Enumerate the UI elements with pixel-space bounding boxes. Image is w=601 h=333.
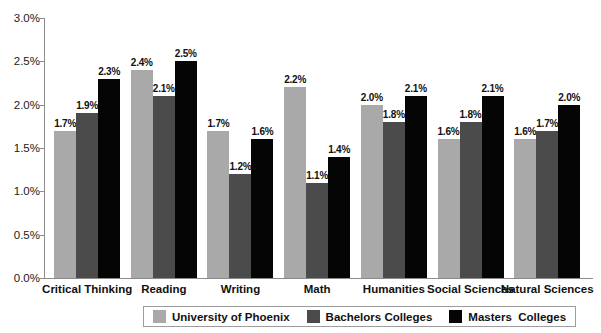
y-axis-tick-label: 0.5% [0,229,40,241]
chart-title [62,0,522,2]
bar-value-label: 1.9% [76,100,98,111]
bar: 2.4% [131,70,153,278]
bar-group: 1.6%1.8%2.1% [438,18,504,278]
bar-value-label: 2.1% [153,83,175,94]
legend-item[interactable]: Masters Colleges [449,310,566,323]
bar: 2.1% [153,96,175,278]
bar: 1.4% [328,157,350,278]
bar: 2.1% [405,96,427,278]
bar: 1.6% [251,139,273,278]
category-label: Math [304,283,331,295]
bar: 1.7% [536,131,558,278]
bar-value-label: 2.5% [175,48,197,59]
y-axis-tick [39,61,44,62]
bar-value-label: 2.1% [482,83,504,94]
bar: 2.5% [175,61,197,278]
bar-value-label: 1.7% [54,118,76,129]
bar: 2.2% [284,87,306,278]
y-axis-tick-label: 0.0% [0,272,40,284]
category-label: Writing [221,283,260,295]
bar-value-label: 1.6% [438,126,460,137]
y-axis-tick-label: 2.0% [0,99,40,111]
category-label: Natural Sciences [501,283,594,295]
category-label: Critical Thinking [42,283,132,295]
legend-swatch [153,310,166,323]
bar-value-label: 2.0% [361,92,383,103]
bar: 1.2% [229,174,251,278]
category-label: Humanities [363,283,425,295]
bar-value-label: 1.7% [207,118,229,129]
bar: 1.8% [460,122,482,278]
legend-swatch [449,310,462,323]
bar-value-label: 2.3% [98,66,120,77]
plot-area: 1.7%1.9%2.3%2.4%2.1%2.5%1.7%1.2%1.6%2.2%… [44,18,593,278]
bar: 2.0% [361,105,383,278]
bar-value-label: 1.8% [460,109,482,120]
bar-value-label: 1.7% [536,118,558,129]
bar-value-label: 2.4% [131,57,153,68]
y-axis-labels: 0.0%0.5%1.0%1.5%2.0%2.5%3.0% [0,18,40,278]
bar-group: 2.2%1.1%1.4% [284,18,350,278]
bar-group: 1.7%1.2%1.6% [207,18,273,278]
x-axis-line [44,278,593,279]
bar-group: 2.0%1.8%2.1% [361,18,427,278]
bar-value-label: 1.2% [229,161,251,172]
bar-value-label: 1.1% [306,170,328,181]
bar: 1.1% [306,183,328,278]
category-label: Reading [141,283,186,295]
y-axis-tick-label: 3.0% [0,12,40,24]
y-axis-tick-label: 1.0% [0,185,40,197]
bar-chart: 0.0%0.5%1.0%1.5%2.0%2.5%3.0% 1.7%1.9%2.3… [0,0,601,333]
y-axis-line [44,18,45,278]
legend-label: University of Phoenix [172,311,290,323]
legend-item[interactable]: University of Phoenix [153,310,290,323]
bar: 1.6% [438,139,460,278]
bar-value-label: 2.1% [405,83,427,94]
bar-group: 1.7%1.9%2.3% [54,18,120,278]
bar-value-label: 1.6% [514,126,536,137]
chart-legend: University of PhoenixBachelors CollegesM… [143,306,576,327]
legend-label: Bachelors Colleges [326,311,433,323]
bar: 1.7% [207,131,229,278]
y-axis-tick-label: 1.5% [0,142,40,154]
bar-value-label: 2.2% [284,74,306,85]
bar: 2.3% [98,79,120,278]
y-axis-tick [39,235,44,236]
y-axis-tick-label: 2.5% [0,55,40,67]
bar: 2.1% [482,96,504,278]
legend-item[interactable]: Bachelors Colleges [307,310,433,323]
bar-value-label: 1.4% [328,144,350,155]
bar: 1.7% [54,131,76,278]
y-axis-tick [39,148,44,149]
bar: 1.8% [383,122,405,278]
bar-value-label: 1.6% [251,126,273,137]
bar-group: 1.6%1.7%2.0% [514,18,580,278]
y-axis-tick [39,18,44,19]
legend-label: Masters Colleges [468,311,566,323]
bar-value-label: 1.8% [383,109,405,120]
bar-value-label: 2.0% [558,92,580,103]
y-axis-tick [39,278,44,279]
y-axis-tick [39,191,44,192]
bar-group: 2.4%2.1%2.5% [131,18,197,278]
bar: 2.0% [558,105,580,278]
legend-swatch [307,310,320,323]
bar: 1.6% [514,139,536,278]
y-axis-tick [39,105,44,106]
bar: 1.9% [76,113,98,278]
